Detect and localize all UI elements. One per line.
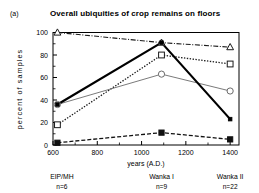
marker-series-square — [227, 61, 233, 67]
marker-series-dashed — [55, 140, 60, 145]
x-tick-label: 1200 — [178, 149, 194, 156]
y-tick-label: 0 — [44, 142, 48, 149]
marker-series-dashed — [159, 130, 164, 135]
marker-series-circle — [227, 88, 233, 94]
line-chart-plot: 020406080100 600800100012001400 EIP/MHn=… — [0, 0, 259, 193]
group-label-count: n=9 — [156, 183, 168, 190]
y-tick-label: 100 — [36, 29, 48, 36]
group-label-name: Wanka I — [149, 173, 174, 180]
x-axis-ticks — [53, 141, 230, 145]
figure-panel: (a) Overall ubiquities of crop remains o… — [0, 0, 259, 193]
marker-series-square — [55, 122, 61, 128]
y-tick-label: 60 — [40, 74, 48, 81]
x-axis-label: years (A.D.) — [127, 160, 164, 168]
marker-series-thick — [56, 103, 60, 107]
x-axis-tick-labels: 600800100012001400 — [47, 149, 238, 156]
y-axis-tick-labels: 020406080100 — [36, 29, 48, 149]
x-tick-label: 800 — [91, 149, 103, 156]
group-labels: EIP/MHn=6Wanka In=9Wanka IIn=22 — [50, 173, 243, 190]
y-tick-label: 20 — [40, 119, 48, 126]
marker-series-square — [159, 52, 165, 58]
line-series-triangle — [57, 33, 230, 48]
x-tick-label: 1000 — [134, 149, 150, 156]
line-series-thick — [57, 43, 230, 120]
group-label-name: EIP/MH — [50, 173, 74, 180]
x-tick-label: 600 — [47, 149, 59, 156]
data-series-markers — [54, 29, 234, 145]
marker-series-triangle — [227, 44, 234, 50]
group-label-count: n=22 — [223, 183, 238, 190]
marker-series-thick — [228, 117, 232, 121]
y-axis-label: percent of samples — [15, 49, 24, 130]
data-series-lines — [57, 33, 230, 143]
line-series-dashed — [57, 133, 230, 143]
marker-series-thick — [160, 41, 164, 45]
y-tick-label: 80 — [40, 52, 48, 59]
plot-border — [53, 33, 239, 146]
group-label-count: n=6 — [56, 183, 68, 190]
group-label-name: Wanka II — [217, 173, 244, 180]
y-tick-label: 40 — [40, 97, 48, 104]
marker-series-dashed — [228, 137, 233, 142]
marker-series-circle — [158, 71, 164, 77]
x-tick-label: 1400 — [222, 149, 238, 156]
plot-frame — [53, 33, 239, 146]
